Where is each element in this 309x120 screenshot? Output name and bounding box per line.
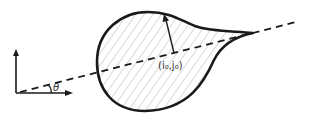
- coordinate-axes: [13, 49, 73, 96]
- angle-label: θ: [53, 82, 59, 93]
- x-axis-arrow-icon: [65, 90, 73, 96]
- teardrop-diagram: θ (i₀,j₀): [0, 0, 309, 120]
- y-axis-arrow-icon: [13, 49, 19, 56]
- center-label: (i₀,j₀): [158, 60, 183, 71]
- angle-arc: [48, 85, 51, 93]
